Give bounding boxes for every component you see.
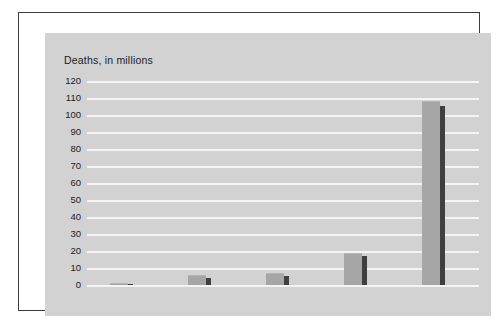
gridline [87,285,479,287]
bar-shadow-1800s [362,256,367,285]
y-tick-label: 100 [65,110,81,120]
bar-1800s[interactable] [344,253,362,285]
bar-group-1600s[interactable] [188,275,211,285]
bar-group-1800s[interactable] [344,253,367,285]
bar-shadow-1700s [284,276,289,285]
gridline [87,166,479,168]
y-tick-label: 30 [70,229,81,239]
gridline [87,217,479,219]
bar-shadow-1600s [206,278,211,285]
gridline [87,200,479,202]
y-tick-label: 50 [70,195,81,205]
y-tick-label: 110 [66,93,81,103]
y-tick-label: 20 [70,246,81,256]
y-tick-label: 60 [70,178,81,188]
bar-shadow-1500s [128,284,133,285]
gridline [87,183,479,185]
y-tick-label: 40 [70,212,81,222]
bar-group-1900s[interactable] [422,101,445,285]
gridline [87,251,479,253]
gridline [87,98,479,100]
y-tick-label: 70 [70,161,81,171]
y-tick-label: 90 [70,127,81,137]
bar-1600s[interactable] [188,275,206,285]
gridline [87,81,479,83]
chart-page: Deaths, in millions 120 110 100 90 80 70… [0,0,500,327]
gridline [87,234,479,236]
gridline [87,115,479,117]
figure-frame: Deaths, in millions 120 110 100 90 80 70… [18,12,480,311]
bar-1500s[interactable] [110,283,128,285]
bar-1900s[interactable] [422,101,440,285]
bar-group-1700s[interactable] [266,273,289,285]
chart-title: Deaths, in millions [64,54,153,66]
y-tick-label: 10 [70,263,81,273]
y-tick-label: 80 [70,144,81,154]
y-tick-label: 0 [76,280,81,290]
bar-1700s[interactable] [266,273,284,285]
gridline [87,149,479,151]
gridline [87,268,479,270]
plot-area: 1500s 1600s 1700s 1800s 1900s [87,81,479,285]
bar-shadow-1900s [440,106,445,285]
gridline [87,132,479,134]
y-tick-label: 120 [65,76,81,86]
y-axis-tick-labels: 120 110 100 90 80 70 60 50 40 30 20 10 0 [55,81,81,285]
bar-group-1500s[interactable] [110,283,133,285]
